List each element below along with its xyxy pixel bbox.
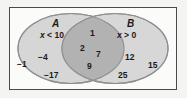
element-intersection: 2 (80, 44, 85, 53)
element-a-only: −17 (44, 71, 58, 80)
element-b-only: 25 (118, 71, 127, 80)
venn-diagram-figure: A x < 10 B x > 0 −1 −4 −17 1 2 7 9 12 15… (0, 0, 187, 98)
set-b-condition-rel-text: > 0 (124, 30, 136, 40)
element-intersection: 1 (90, 29, 95, 38)
element-b-only: 12 (125, 53, 134, 62)
element-intersection: 9 (87, 62, 92, 71)
element-b-only: 15 (148, 61, 157, 70)
venn-circles-graphic (9, 7, 177, 90)
element-a-only: −1 (17, 60, 27, 69)
element-intersection: 7 (96, 50, 101, 59)
set-a-condition-rel-text: < 10 (47, 30, 64, 40)
set-a-label: A (52, 19, 59, 29)
set-b-condition: x > 0 (117, 31, 136, 40)
element-a-only: −4 (38, 53, 48, 62)
set-a-condition: x < 10 (40, 31, 64, 40)
set-b-label: B (127, 19, 134, 29)
